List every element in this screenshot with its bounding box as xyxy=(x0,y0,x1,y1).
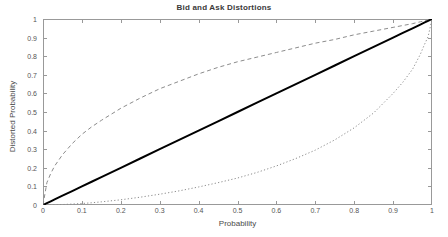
y-tick-label: 0.8 xyxy=(0,53,37,60)
x-tick-label: 0.7 xyxy=(310,207,320,214)
series-paths xyxy=(43,19,432,205)
y-tick-label: 0.5 xyxy=(0,109,37,116)
x-tick-label: 1 xyxy=(430,207,434,214)
y-axis-label: Distorted Probability xyxy=(8,67,17,167)
chart-title: Bid and Ask Distortions xyxy=(0,3,448,12)
y-tick-label: 0.4 xyxy=(0,127,37,134)
x-tick-label: 0.9 xyxy=(388,207,398,214)
plot-canvas xyxy=(43,19,432,205)
y-tick-label: 0.7 xyxy=(0,71,37,78)
plot-area xyxy=(43,19,432,205)
x-tick-label: 0.3 xyxy=(155,207,165,214)
x-tick-label: 0.1 xyxy=(77,207,87,214)
y-tick-label: 0.2 xyxy=(0,164,37,171)
x-tick-label: 0.6 xyxy=(272,207,282,214)
y-tick-label: 0.9 xyxy=(0,34,37,41)
y-tick-label: 1 xyxy=(0,16,37,23)
y-tick-label: 0.1 xyxy=(0,183,37,190)
y-tick-label: 0.6 xyxy=(0,90,37,97)
x-axis-label: Probability xyxy=(43,219,432,228)
x-tick-label: 0.5 xyxy=(233,207,243,214)
x-tick-label: 0.4 xyxy=(194,207,204,214)
series-line xyxy=(43,19,432,205)
x-tick-label: 0 xyxy=(41,207,45,214)
y-tick-label: 0 xyxy=(0,202,37,209)
x-tick-label: 0.8 xyxy=(349,207,359,214)
x-tick-label: 0.2 xyxy=(116,207,126,214)
y-tick-label: 0.3 xyxy=(0,146,37,153)
chart-figure: Bid and Ask Distortions 00.10.20.30.40.5… xyxy=(0,0,448,237)
